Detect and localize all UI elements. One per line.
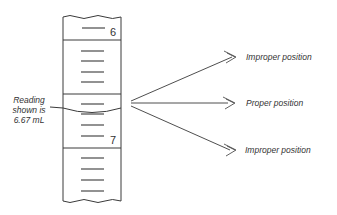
sight-line-improper-bottom (131, 106, 230, 150)
reading-label-line-3: 6.67 mL (4, 115, 54, 125)
eye-icon-top (224, 51, 236, 63)
burette-reading-diagram: 6 7 Reading shown is 6.67 mL Improper po… (0, 0, 337, 215)
meniscus-curve (63, 108, 121, 113)
sight-line-improper-top (131, 57, 232, 101)
label-proper-position: Proper position (246, 99, 303, 108)
scale-number-7: 7 (110, 135, 116, 146)
reading-label-line-2: shown is (4, 105, 54, 115)
label-improper-position-bottom: Improper position (245, 146, 311, 155)
burette-bottom-edge (63, 200, 121, 203)
reading-label-line-1: Reading (4, 95, 54, 105)
burette-top-edge (63, 16, 121, 19)
scale-number-6: 6 (110, 27, 116, 38)
reading-annotation: Reading shown is 6.67 mL (4, 95, 54, 125)
label-improper-position-top: Improper position (246, 53, 312, 62)
